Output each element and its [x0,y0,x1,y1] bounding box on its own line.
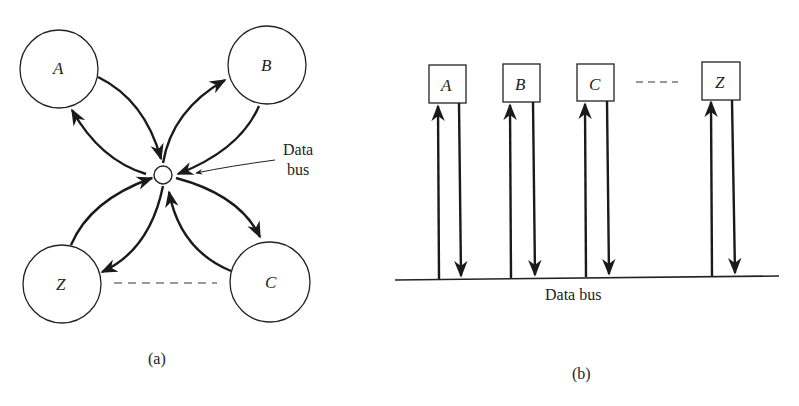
node-label-c: C [589,75,601,94]
caption-b: (b) [572,365,591,383]
arrow-bus-to-b [163,80,225,163]
node-label-b: B [261,56,272,75]
caption-a: (a) [148,350,166,368]
node-label-c: C [265,273,277,292]
panel-b: A B C Z Data bus (b) [395,62,779,383]
data-bus-label-line1: Data [283,141,313,158]
arrow-bus-to-a [72,110,146,174]
node-label-z: Z [715,73,725,92]
arrow-bus-to-a [438,106,439,279]
arrow-c-to-bus [169,192,231,271]
data-bus-pointer [196,160,275,173]
arrow-z-to-bus [732,100,735,273]
panel-a: A B Z C Data bus (a) [20,26,313,368]
node-label-z: Z [56,275,66,294]
data-bus-label-line2: bus [287,161,309,178]
arrow-bus-to-b [510,105,511,278]
arrow-bus-to-c [585,104,586,277]
arrow-a-to-bus [459,103,461,276]
node-label-a: A [440,76,452,95]
node-label-b: B [515,75,526,94]
node-label-a: A [52,59,64,78]
arrow-bus-to-z [711,102,712,276]
arrow-bus-to-c [176,178,260,237]
diagram-canvas: A B Z C Data bus (a) A B C [0,0,799,406]
arrow-a-to-bus [98,77,161,159]
arrow-z-to-bus [71,178,152,245]
data-bus-hub [154,166,172,184]
arrow-c-to-bus [607,101,609,274]
data-bus-label: Data bus [545,286,601,303]
arrow-b-to-bus [533,102,535,275]
